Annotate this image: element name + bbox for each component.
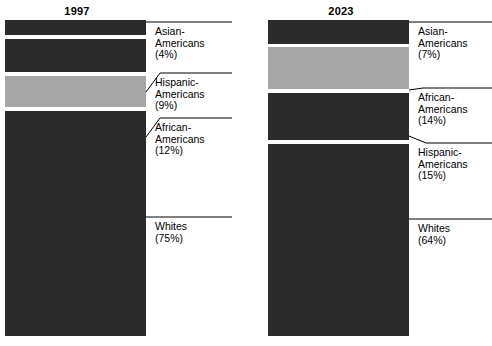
bar-stack-1997 bbox=[5, 20, 146, 336]
bar-segment-asian-americans-1997 bbox=[5, 20, 146, 35]
bar-segment-african-americans-2023 bbox=[268, 47, 409, 89]
callout-label-african-americans-2023: African- Americans (14%) bbox=[418, 92, 468, 127]
callout-label-percent: (64%) bbox=[418, 235, 450, 247]
stacked-bar-chart-figure: 1997 Asian- Americans (4%) Hispani bbox=[0, 0, 492, 346]
callout-label-line1: Hispanic- bbox=[155, 77, 205, 89]
bar-segment-asian-americans-2023 bbox=[268, 20, 409, 44]
chart-panel-1997: 1997 Asian- Americans (4%) Hispani bbox=[0, 0, 246, 346]
callout-labels-1997: Asian- Americans (4%) Hispanic- American… bbox=[155, 0, 246, 346]
callout-labels-2023: Asian- Americans (7%) African- Americans… bbox=[418, 0, 492, 346]
callout-label-line1: African- bbox=[155, 122, 205, 134]
bar-segment-whites-2023 bbox=[268, 144, 409, 336]
callout-label-percent: (75%) bbox=[155, 233, 187, 245]
callout-label-line1: Asian- bbox=[155, 26, 205, 38]
bar-stack-2023 bbox=[268, 20, 409, 336]
panel-title-2023: 2023 bbox=[266, 5, 416, 17]
callout-label-percent: (12%) bbox=[155, 145, 205, 157]
chart-panel-2023: 2023 Asian- Americans (7%) African bbox=[246, 0, 492, 346]
callout-label-asian-americans-1997: Asian- Americans (4%) bbox=[155, 26, 205, 61]
bar-segment-african-americans-1997 bbox=[5, 39, 146, 72]
callout-label-african-americans-1997: African- Americans (12%) bbox=[155, 122, 205, 157]
callout-label-percent: (4%) bbox=[155, 49, 205, 61]
callout-label-asian-americans-2023: Asian- Americans (7%) bbox=[418, 26, 468, 61]
callout-label-line1: Whites bbox=[155, 221, 187, 233]
callout-label-whites-2023: Whites (64%) bbox=[418, 223, 450, 246]
callout-label-hispanic-americans-2023: Hispanic- Americans (15%) bbox=[418, 147, 468, 182]
bar-segment-hispanic-americans-2023 bbox=[268, 93, 409, 140]
callout-label-percent: (14%) bbox=[418, 115, 468, 127]
callout-label-hispanic-americans-1997: Hispanic- Americans (9%) bbox=[155, 77, 205, 112]
callout-label-line1: African- bbox=[418, 92, 468, 104]
bar-segment-hispanic-americans-1997 bbox=[5, 76, 146, 107]
callout-label-percent: (7%) bbox=[418, 49, 468, 61]
callout-label-line1: Hispanic- bbox=[418, 147, 468, 159]
callout-label-percent: (9%) bbox=[155, 100, 205, 112]
callout-label-line1: Asian- bbox=[418, 26, 468, 38]
panel-title-1997: 1997 bbox=[2, 5, 152, 17]
callout-label-whites-1997: Whites (75%) bbox=[155, 221, 187, 244]
callout-label-line1: Whites bbox=[418, 223, 450, 235]
callout-label-percent: (15%) bbox=[418, 170, 468, 182]
bar-segment-whites-1997 bbox=[5, 111, 146, 336]
